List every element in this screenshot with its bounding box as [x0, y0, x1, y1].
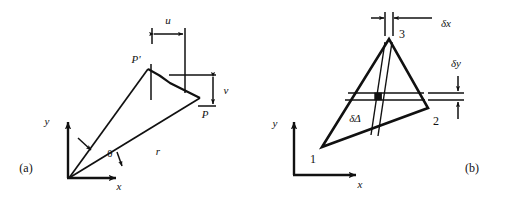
panel-b-x-axis-label: x: [357, 178, 363, 190]
panel-b-vertex-2-label: 2: [433, 114, 439, 128]
panel-a-ray-to-p-prime: [69, 69, 148, 178]
panel-a-y-axis-label: y: [44, 115, 50, 127]
panel-b-caption: (b): [465, 161, 479, 175]
figure-svg: y x θ r P' P u v (a): [0, 0, 508, 200]
panel-b-delta-area-label: δΔ: [349, 112, 361, 124]
panel-a-ray-to-p: [69, 98, 200, 178]
panel-b-delta-y-label: δy: [451, 57, 461, 69]
figure-container: y x θ r P' P u v (a): [0, 0, 508, 200]
panel-b-vertex-3-label: 3: [399, 27, 405, 41]
panel-a-v-label: v: [224, 84, 229, 96]
panel-b-delta-area-marker: [374, 93, 382, 101]
panel-a-u-label: u: [165, 14, 171, 26]
panel-a-caption: (a): [19, 161, 32, 175]
panel-a-arc-p-prime-to-p: [148, 69, 200, 98]
panel-a-r-label: r: [156, 145, 161, 157]
panel-a-theta-label: θ: [107, 147, 112, 159]
panel-b: y x 1 2 3 δx δy δΔ (b): [272, 12, 479, 190]
panel-a-x-axis-label: x: [116, 180, 122, 192]
panel-a-theta-arrow-upper: [78, 138, 91, 150]
panel-a-p-prime-label: P': [130, 53, 141, 65]
panel-b-y-axis-label: y: [272, 117, 278, 129]
panel-b-delta-x-label: δx: [441, 17, 451, 29]
panel-b-vertex-1-label: 1: [310, 152, 316, 166]
panel-a-theta-arrow-lower: [117, 152, 122, 166]
panel-a-p-label: P: [201, 108, 209, 120]
panel-a: y x θ r P' P u v (a): [19, 14, 228, 192]
